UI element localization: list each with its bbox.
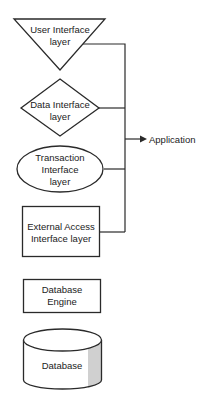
node-database-engine: Database Engine [24, 280, 101, 313]
svg-text:Transaction: Transaction [35, 152, 84, 163]
node-data-interface-layer: Data Interface layer [21, 79, 99, 136]
connectors [83, 44, 141, 232]
svg-text:External Access: External Access [27, 221, 95, 232]
svg-text:Database: Database [42, 360, 83, 371]
svg-text:Database: Database [42, 284, 83, 295]
connector-ui [83, 44, 125, 232]
svg-text:layer: layer [50, 111, 71, 122]
svg-text:Engine: Engine [47, 296, 77, 307]
application-label: Application [149, 134, 195, 145]
svg-text:Interface layer: Interface layer [31, 233, 91, 244]
svg-text:User Interface: User Interface [30, 24, 90, 35]
arrow-head-icon [140, 136, 147, 143]
svg-text:Data Interface: Data Interface [30, 99, 90, 110]
architecture-diagram: Application User Interface layer Data In… [0, 0, 201, 405]
node-database: Database [24, 329, 102, 389]
svg-text:layer: layer [50, 36, 71, 47]
node-external-access-interface-layer: External Access Interface layer [23, 207, 100, 257]
svg-text:layer: layer [50, 176, 71, 187]
svg-text:Interface: Interface [42, 164, 79, 175]
node-transaction-interface-layer: Transaction Interface layer [17, 146, 103, 192]
